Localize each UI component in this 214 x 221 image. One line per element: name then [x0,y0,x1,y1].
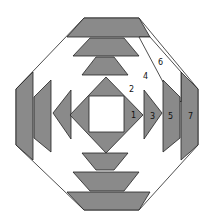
label-7: 7 [188,112,193,121]
label-5: 5 [168,112,173,121]
label-3: 3 [150,112,155,121]
piece-7-bottom [67,192,150,210]
quilt-block-diagram: 1 2 3 4 5 6 7 [0,0,214,221]
label-2: 2 [129,85,134,94]
piece-7-top [67,18,150,37]
piece-7-left [16,72,33,160]
label-6: 6 [158,58,163,67]
center-square [89,96,124,132]
label-1: 1 [131,111,136,120]
label-4: 4 [143,72,148,81]
